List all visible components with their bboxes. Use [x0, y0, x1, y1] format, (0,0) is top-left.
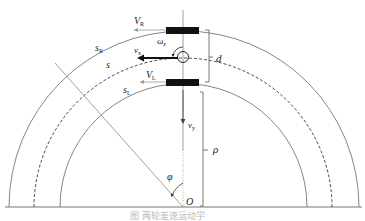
kinematics-diagram: VR sR s sL VL vx ωz d vy ρ φ O 图 两轮差速运动学	[0, 0, 365, 221]
label-d: d	[216, 52, 222, 64]
left-wheel	[166, 79, 199, 86]
svg-text:sR: sR	[95, 42, 103, 54]
label-phi: φ	[167, 171, 173, 182]
vl-arrowhead	[140, 80, 144, 84]
svg-text:VL: VL	[146, 69, 156, 81]
svg-text:vx: vx	[134, 45, 141, 56]
svg-text:vy: vy	[188, 120, 195, 131]
label-s: s	[106, 59, 110, 70]
inner-arc-sL	[60, 84, 307, 208]
svg-text:ωz: ωz	[157, 36, 166, 47]
label-rho: ρ	[212, 143, 218, 155]
vr-arrowhead	[134, 28, 138, 32]
rho-bracket	[200, 92, 208, 206]
phi-arc	[172, 183, 183, 196]
d-bracket	[205, 30, 213, 82]
angle-ray	[55, 63, 183, 207]
svg-text:VR: VR	[134, 15, 144, 27]
vy-arrowhead	[181, 119, 186, 124]
right-wheel	[166, 27, 199, 34]
svg-text:sL: sL	[123, 84, 131, 96]
label-origin: O	[186, 196, 193, 207]
caption: 图 两轮差速运动学	[130, 210, 205, 221]
